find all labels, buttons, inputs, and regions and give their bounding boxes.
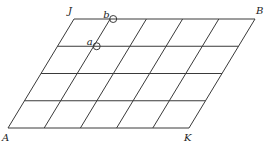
grid-lines	[8, 19, 255, 128]
grid-points: ba	[87, 9, 117, 50]
corner-label-k: K	[183, 132, 192, 143]
corner-label-b: B	[255, 5, 263, 16]
point-label-a: a	[87, 36, 93, 47]
point-label-b: b	[103, 9, 109, 20]
corner-label-j: J	[66, 5, 73, 16]
corner-label-a: A	[1, 132, 9, 143]
parallelogram-grid-diagram: ba J B A K	[0, 0, 264, 157]
